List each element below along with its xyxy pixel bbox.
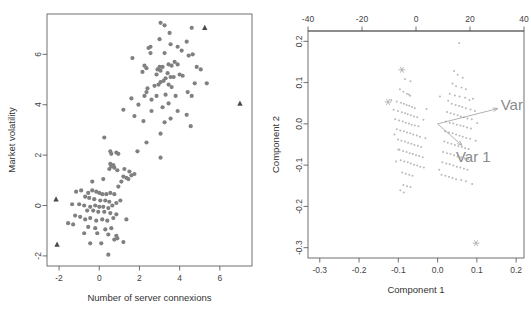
score-point bbox=[443, 141, 445, 143]
x-axis-title: Number of server connexions bbox=[87, 292, 211, 303]
x-tick-label: 6 bbox=[217, 273, 222, 283]
data-point bbox=[71, 222, 75, 226]
data-point bbox=[106, 253, 110, 257]
data-point bbox=[115, 168, 119, 172]
x-tick-label: -0.2 bbox=[352, 265, 367, 275]
data-point bbox=[74, 190, 78, 194]
score-point bbox=[472, 98, 474, 100]
score-point bbox=[401, 172, 403, 174]
score-point bbox=[462, 77, 464, 79]
data-point bbox=[187, 53, 191, 57]
score-point bbox=[413, 164, 415, 166]
score-point bbox=[474, 110, 476, 112]
score-point bbox=[475, 140, 477, 142]
plot-box bbox=[308, 31, 524, 258]
score-point bbox=[456, 124, 458, 126]
score-point bbox=[404, 112, 406, 114]
score-point bbox=[466, 118, 468, 120]
score-point bbox=[471, 118, 473, 120]
y-tick-label: 0.0 bbox=[294, 118, 304, 130]
score-point bbox=[459, 135, 461, 137]
score-point bbox=[453, 154, 455, 156]
y-tick-label: 0.2 bbox=[294, 35, 304, 47]
score-point bbox=[455, 134, 457, 136]
data-point bbox=[82, 231, 86, 235]
data-point bbox=[118, 198, 122, 202]
top-axis-tick-label: -40 bbox=[302, 14, 315, 24]
data-point bbox=[109, 152, 113, 156]
data-point bbox=[121, 174, 125, 178]
score-point bbox=[456, 166, 458, 168]
data-point bbox=[106, 232, 110, 236]
score-point bbox=[449, 163, 451, 165]
score-point bbox=[465, 88, 467, 90]
score-point bbox=[468, 99, 470, 101]
score-point bbox=[444, 175, 446, 177]
data-point bbox=[172, 75, 176, 79]
data-point bbox=[92, 197, 96, 201]
arrow-head bbox=[493, 108, 498, 109]
score-point bbox=[470, 108, 472, 110]
score-point bbox=[458, 105, 460, 107]
score-point bbox=[454, 144, 456, 146]
score-point bbox=[420, 146, 422, 148]
data-point bbox=[95, 231, 99, 235]
data-point bbox=[124, 217, 128, 221]
data-point bbox=[135, 149, 139, 153]
data-point bbox=[185, 40, 189, 44]
score-point bbox=[442, 151, 444, 153]
top-axis-tick-label: 20 bbox=[465, 14, 475, 24]
score-point bbox=[408, 105, 410, 107]
data-point bbox=[195, 65, 199, 69]
data-point bbox=[79, 188, 83, 192]
score-point bbox=[410, 186, 412, 188]
score-point bbox=[403, 130, 405, 132]
data-point bbox=[107, 167, 111, 171]
score-point bbox=[413, 144, 415, 146]
score-point bbox=[419, 136, 421, 138]
data-point bbox=[112, 192, 116, 196]
data-point bbox=[160, 65, 164, 69]
score-point bbox=[466, 169, 468, 171]
score-point bbox=[403, 191, 405, 193]
panel-left-scatter: -20246-20246Number of server connexionsM… bbox=[0, 0, 266, 315]
data-point bbox=[154, 72, 158, 76]
data-point bbox=[132, 172, 136, 176]
data-point bbox=[185, 113, 189, 117]
data-point bbox=[78, 215, 82, 219]
data-point bbox=[162, 23, 166, 27]
score-point bbox=[390, 99, 392, 101]
score-point bbox=[408, 122, 410, 124]
score-point bbox=[419, 166, 421, 168]
score-point bbox=[409, 152, 411, 154]
score-point bbox=[398, 120, 400, 122]
data-point bbox=[189, 124, 193, 128]
outlier-point bbox=[237, 100, 242, 105]
data-point bbox=[160, 105, 164, 109]
data-point bbox=[121, 108, 125, 112]
data-point bbox=[129, 96, 133, 100]
y-tick-label: 0.1 bbox=[294, 76, 304, 88]
score-point bbox=[452, 122, 454, 124]
score-point bbox=[400, 140, 402, 142]
data-point bbox=[162, 120, 166, 124]
score-point bbox=[413, 115, 415, 117]
data-point bbox=[180, 48, 184, 52]
data-point bbox=[90, 179, 94, 183]
arrow-label: Var 1 bbox=[456, 148, 491, 165]
score-point bbox=[465, 137, 467, 139]
score-point bbox=[407, 161, 409, 163]
flagged-point bbox=[398, 67, 405, 73]
data-point bbox=[158, 21, 162, 25]
data-point bbox=[145, 86, 149, 90]
data-point bbox=[154, 94, 158, 98]
data-point bbox=[114, 201, 118, 205]
score-point bbox=[455, 85, 457, 87]
data-point bbox=[174, 94, 178, 98]
score-point bbox=[410, 114, 412, 116]
score-point bbox=[406, 93, 408, 95]
outlier-point bbox=[54, 242, 59, 247]
data-point bbox=[93, 226, 97, 230]
data-point bbox=[158, 156, 162, 160]
score-point bbox=[446, 152, 448, 154]
